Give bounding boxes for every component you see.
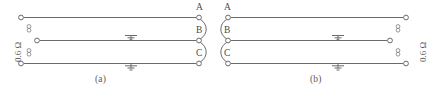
panel-b [221,15,409,70]
panel-b-terminal-C [226,61,231,66]
panel-a-resistance-label: 0.6 Ω [13,42,23,62]
panel-a-left-terminal-mid [35,38,40,43]
circuit-figure: A B C A B C 0.6 Ω 0.6 Ω (a) (b) [0,0,427,93]
panel-b-coil-lower [396,49,400,57]
panel-b-coil-upper [396,25,400,33]
panel-b-terminal-B [226,38,231,43]
circuit-svg [0,0,427,93]
panel-a-terminal-C [197,61,202,66]
panel-b-resistance-label: 0.6 Ω [418,42,427,62]
panel-b-label-B: B [224,25,230,35]
panel-b-terminal-A [226,15,231,20]
panel-a-label-C: C [196,48,202,58]
panel-b-right-terminal-mid [388,38,393,43]
panel-a-label-A: A [196,2,203,12]
panel-a-coil-upper [27,25,31,33]
panel-a-terminal-B [197,38,202,43]
panel-a-caption: (a) [95,74,106,84]
panel-b-ground-mid [332,36,344,41]
panel-a-ground-bottom [125,64,137,71]
panel-a-left-terminal-top [19,15,24,20]
panel-b-right-terminal-top [404,15,409,20]
panel-a-label-B: B [196,25,202,35]
panel-a-coil-lower [27,49,31,57]
panel-b-label-C: C [224,48,230,58]
panel-b-right-terminal-bottom [404,61,409,66]
panel-b-caption: (b) [310,74,322,84]
panel-a-terminal-A [197,15,202,20]
panel-b-label-A: A [224,2,231,12]
panel-b-ground-bottom [332,64,344,71]
panel-a-ground-mid [125,36,137,41]
panel-a [19,15,207,70]
